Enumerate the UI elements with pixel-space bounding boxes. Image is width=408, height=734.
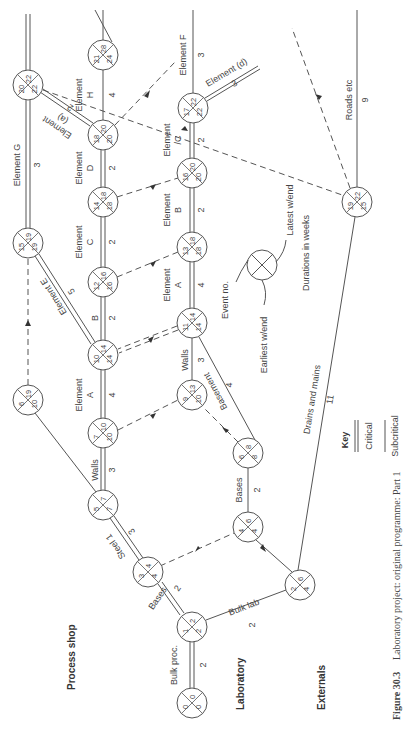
dur-bases-1: 2: [172, 583, 183, 593]
latest-label: 14: [188, 313, 197, 321]
svg-text:H: H: [85, 92, 95, 99]
dur-bulk: 2: [198, 662, 208, 667]
svg-text:C: C: [85, 238, 95, 245]
latest-label: 8: [244, 445, 253, 449]
dur-element-h: 4: [107, 92, 117, 97]
event-node: 122: [177, 612, 207, 642]
label-element-g: Element G: [12, 144, 22, 187]
event-label: 16: [181, 173, 190, 181]
svg-text:Element: Element: [162, 123, 172, 157]
latest-label: 19: [24, 233, 33, 241]
latest-label: 18: [188, 237, 197, 245]
event-node: 71010: [88, 418, 118, 448]
activity-steel-2: [35, 413, 96, 492]
event-label: 6: [17, 402, 26, 406]
event-label: 19: [346, 202, 355, 210]
event-label: 14: [92, 202, 101, 210]
dur-element-b: 2: [196, 207, 206, 212]
legend-key-title: Key: [340, 432, 350, 449]
latest-label: 22: [24, 75, 33, 83]
event-label: 9: [181, 397, 190, 401]
label-bases-lab: Bases: [234, 477, 244, 503]
legend-latest: Latest w/end: [285, 184, 295, 235]
latest-label: 20: [188, 163, 197, 171]
dur-element-a-process: 4: [107, 392, 117, 397]
dur-basement: 4: [224, 382, 234, 387]
latest-label: 28: [99, 45, 108, 53]
dur-bases-lab: 2: [252, 487, 262, 492]
section-laboratory: Laboratory: [235, 657, 246, 710]
activity-b: [101, 297, 105, 340]
legend-event-no: Event no.: [220, 281, 230, 319]
activity-element-a-lab: [190, 262, 194, 308]
dummy-19-out: [292, 28, 350, 188]
earliest-label: 24: [105, 55, 114, 63]
label-element-f: Element F: [178, 34, 188, 76]
latest-label: 2: [188, 619, 197, 623]
event-node: 131818: [177, 232, 207, 262]
latest-label: 18: [99, 192, 108, 200]
latest-label: 14: [99, 345, 108, 353]
earliest-label: 22: [30, 85, 39, 93]
dummy-7-9: [118, 400, 178, 430]
svg-text:Element: Element: [74, 225, 84, 259]
earliest-label: 16: [105, 282, 114, 290]
event-node: 91310: [177, 380, 207, 410]
event-node: 61910: [13, 385, 43, 415]
svg-text:A: A: [85, 392, 95, 398]
earliest-label: 7: [105, 507, 114, 511]
event-node: 141818: [88, 187, 118, 217]
earliest-label: 14: [105, 355, 114, 363]
latest-label: 7: [99, 497, 108, 501]
svg-text:B: B: [173, 207, 183, 213]
legend-durations: Durations in weeks: [301, 214, 311, 291]
event-label: 10: [92, 355, 101, 363]
caption-figure: Figure 30.3: [391, 672, 402, 720]
earliest-label: 10: [105, 433, 114, 441]
event-node: 192215: [342, 187, 372, 217]
earliest-label: 4: [150, 574, 159, 578]
legend-critical: Critical: [364, 422, 374, 450]
activity-element-a-process: [101, 370, 105, 418]
earliest-label: 18: [194, 247, 203, 255]
activity-walls-critical: [101, 448, 105, 490]
dur-walls-process: 3: [107, 467, 117, 472]
event-node: 000: [177, 688, 207, 718]
event-label: 3: [137, 574, 146, 578]
earliest-label: 4: [302, 587, 311, 591]
svg-text:/C: /C: [173, 135, 183, 145]
label-roads: Roads etc: [344, 79, 354, 120]
svg-text:Figure 30.3: Figure 30.3: [391, 672, 402, 720]
dur-roads: 9: [360, 97, 370, 102]
latest-label: 22: [189, 98, 198, 106]
earliest-label: 18: [105, 202, 114, 210]
dur-element-g: 3: [32, 162, 42, 167]
event-node: 202222: [13, 70, 43, 100]
latest-label: 10: [99, 423, 108, 431]
event-node: 121616: [88, 267, 118, 297]
event-label: 6: [237, 455, 246, 459]
legend-earliest: Earliest w/end: [259, 317, 269, 374]
dummy-18-out: [115, 62, 175, 125]
event-label: 11: [181, 323, 190, 331]
section-externals: Externals: [316, 665, 327, 710]
dur-element-a-lab: 4: [196, 282, 206, 287]
section-process-shop: Process shop: [66, 624, 77, 690]
svg-text:Element: Element: [74, 78, 84, 112]
dur-walls-lab: 3: [196, 357, 206, 362]
event-node: 212824: [88, 40, 118, 70]
event-node: 111414: [177, 308, 207, 338]
event-node: 688: [233, 438, 263, 468]
label-walls-process: Walls: [90, 459, 100, 481]
event-label: 4: [237, 529, 246, 533]
svg-text:D: D: [85, 164, 95, 171]
activity-element-c-process: [101, 217, 105, 267]
label-bulk-lab: Bulk lab: [227, 597, 260, 618]
earliest-label: 20: [105, 135, 114, 143]
dur-element-f: 3: [196, 52, 206, 57]
earliest-label: 4: [250, 529, 259, 533]
earliest-label: 15: [359, 202, 368, 210]
latest-label: 6: [296, 577, 305, 581]
label-b: B: [90, 315, 100, 321]
activity-labels: Bulk proc. 2 Bases 2 Bulk lab 2 Steel 1 …: [12, 34, 370, 685]
